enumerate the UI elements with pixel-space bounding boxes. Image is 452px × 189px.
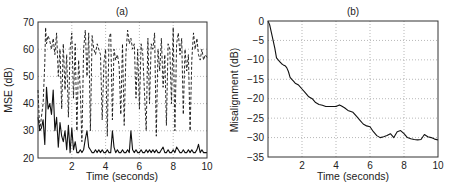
y-tick-label: −20 xyxy=(247,93,264,104)
y-tick-label: 20 xyxy=(23,153,35,164)
series-line xyxy=(268,21,438,140)
x-tick-label: 10 xyxy=(201,161,213,172)
x-tick-label: 2 xyxy=(299,160,305,171)
panel-a-xlabel: Time (seconds) xyxy=(86,170,158,182)
panel-a: (a) 246810203040506070 Time (seconds) MS… xyxy=(2,6,213,182)
y-tick-label: 40 xyxy=(23,98,35,109)
y-tick-label: −15 xyxy=(247,74,264,85)
panel-b-title: (b) xyxy=(347,6,359,17)
y-tick-label: −10 xyxy=(247,54,264,65)
panel-a-title: (a) xyxy=(116,6,128,17)
series-line xyxy=(38,87,207,152)
x-tick-label: 8 xyxy=(170,161,176,172)
panel-b-axes-box xyxy=(268,21,438,157)
x-tick-label: 10 xyxy=(432,160,444,171)
panel-a-ylabel: MSE (dB) xyxy=(2,67,14,113)
y-tick-label: 50 xyxy=(23,71,35,82)
y-tick-label: −30 xyxy=(247,132,264,143)
y-tick-label: 70 xyxy=(23,17,35,28)
panel-a-tick-labels: 246810203040506070 xyxy=(23,17,213,173)
y-tick-label: −5 xyxy=(253,35,265,46)
series-line xyxy=(38,27,207,141)
y-tick-label: 0 xyxy=(258,16,264,27)
y-tick-label: 60 xyxy=(23,44,35,55)
panel-a-series xyxy=(38,27,207,152)
panel-b: (b) 2468100−5−10−15−20−25−30−35 Time (se… xyxy=(228,6,444,182)
figure: (a) 246810203040506070 Time (seconds) MS… xyxy=(0,0,452,189)
panel-b-series xyxy=(268,21,438,140)
y-tick-label: −25 xyxy=(247,113,264,124)
y-tick-label: −35 xyxy=(247,152,264,163)
panel-b-tick-labels: 2468100−5−10−15−20−25−30−35 xyxy=(247,16,444,172)
panel-b-xlabel: Time (seconds) xyxy=(317,170,389,182)
y-tick-label: 30 xyxy=(23,125,35,136)
panel-b-grid xyxy=(268,21,438,157)
x-tick-label: 2 xyxy=(69,161,75,172)
x-tick-label: 8 xyxy=(401,160,407,171)
panel-b-ylabel: Misalignment (dB) xyxy=(228,48,240,133)
